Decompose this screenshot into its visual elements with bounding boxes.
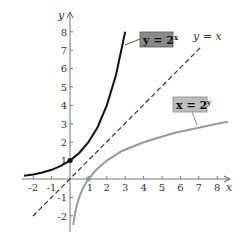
y-tick-label: 7	[61, 45, 67, 56]
y-tick-label: -2	[57, 211, 67, 222]
identity-label: y = x	[192, 30, 222, 43]
point-1-0	[86, 177, 91, 182]
x-tick-label: 2	[104, 182, 110, 193]
point-0-1	[68, 158, 73, 163]
x-tick-label: -2	[28, 182, 38, 193]
y-tick-label: 8	[61, 27, 67, 38]
y-tick-label: 3	[61, 119, 67, 130]
log-label-leader	[192, 112, 197, 125]
x-tick-label: 3	[122, 182, 128, 193]
logarithmic-curve	[73, 122, 228, 225]
x-tick-label: 7	[196, 182, 202, 193]
y-tick-label: 4	[61, 100, 67, 111]
x-tick-label: 6	[177, 182, 183, 193]
y-tick-label: 5	[61, 82, 67, 93]
y-axis-label: y	[57, 9, 65, 22]
exponential-curve	[24, 32, 125, 176]
y-tick-label: 6	[61, 63, 67, 74]
y-tick-label: -1	[57, 192, 67, 203]
x-tick-label: 1	[87, 182, 93, 193]
log-label: x = 2y	[176, 98, 212, 112]
x-tick-label: -1	[47, 182, 57, 193]
x-tick-label: 8	[214, 182, 220, 193]
function-graph: -2 -1 1 2 3 4 5 6 7 8 8 7 6 5 4 3 2 1 -1…	[0, 0, 244, 246]
x-axis-label: x	[226, 181, 233, 194]
y-tick-label: 2	[61, 137, 67, 148]
exp-label: y = 2x	[142, 33, 179, 47]
exp-label-leader	[125, 39, 140, 45]
x-tick-label: 4	[140, 182, 146, 193]
x-tick-label: 5	[159, 182, 165, 193]
